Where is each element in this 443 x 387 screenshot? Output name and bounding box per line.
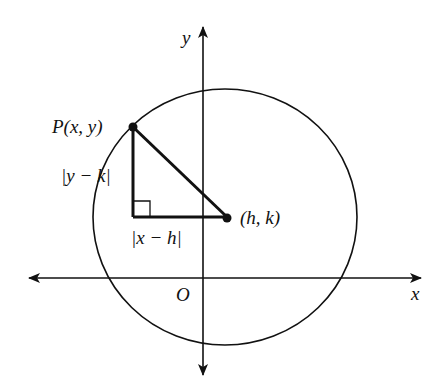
y-axis-label: y	[180, 27, 191, 48]
point-p-label: P(x, y)	[51, 116, 103, 138]
center-label: (h, k)	[240, 207, 280, 229]
horizontal-leg-label: |x − h|	[131, 227, 182, 248]
origin-label: O	[176, 284, 190, 305]
point-p	[129, 123, 138, 132]
x-axis-label: x	[410, 283, 420, 304]
vertical-leg-label: |y − k|	[61, 165, 111, 186]
right-triangle	[133, 127, 227, 217]
center-point	[223, 214, 232, 223]
circle-distance-diagram: y x O P(x, y) (h, k) |y − k| |x − h|	[0, 0, 443, 387]
right-angle-marker	[133, 201, 150, 217]
